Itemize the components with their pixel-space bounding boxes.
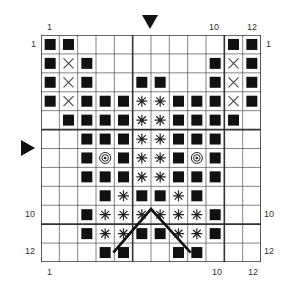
filled-square-icon <box>45 58 56 69</box>
center-row-arrow-icon <box>21 140 35 156</box>
filled-square-icon <box>210 228 221 239</box>
filled-square-icon <box>173 134 184 145</box>
filled-square-icon <box>81 115 92 126</box>
filled-square-icon <box>118 152 129 163</box>
cross-icon <box>229 96 239 106</box>
cross-icon <box>229 58 239 68</box>
filled-square-icon <box>100 247 111 258</box>
filled-square-icon <box>191 134 202 145</box>
filled-square-icon <box>100 115 111 126</box>
filled-square-icon <box>118 134 129 145</box>
filled-square-icon <box>81 171 92 182</box>
filled-square-icon <box>63 115 74 126</box>
asterisk-icon <box>173 190 184 201</box>
filled-square-icon <box>45 96 56 107</box>
left-row-label-12: 12 <box>25 246 35 256</box>
filled-square-icon <box>210 209 221 220</box>
filled-square-icon <box>118 115 129 126</box>
filled-square-icon <box>210 77 221 88</box>
top-col-label-10: 10 <box>209 22 219 32</box>
asterisk-icon <box>136 115 147 126</box>
asterisk-icon <box>155 152 166 163</box>
filled-square-icon <box>210 152 221 163</box>
left-row-label-1: 1 <box>31 39 36 49</box>
filled-square-icon <box>210 171 221 182</box>
filled-square-icon <box>100 171 111 182</box>
stitch-chart-grid <box>41 35 261 262</box>
asterisk-icon <box>100 209 111 220</box>
double-circle-icon <box>191 152 202 163</box>
filled-square-icon <box>246 39 257 50</box>
filled-square-icon <box>81 228 92 239</box>
filled-square-icon <box>81 152 92 163</box>
center-column-arrow-icon <box>142 15 158 29</box>
filled-square-icon <box>191 247 202 258</box>
filled-square-icon <box>81 58 92 69</box>
asterisk-icon <box>191 209 202 220</box>
filled-square-icon <box>191 171 202 182</box>
asterisk-icon <box>136 96 147 107</box>
cross-icon <box>64 96 74 106</box>
filled-square-icon <box>81 77 92 88</box>
left-row-label-10: 10 <box>25 209 35 219</box>
filled-square-icon <box>136 77 147 88</box>
filled-square-icon <box>246 77 257 88</box>
top-col-label-1: 1 <box>47 22 52 32</box>
cross-icon <box>229 77 239 87</box>
filled-square-icon <box>118 247 129 258</box>
filled-square-icon <box>63 39 74 50</box>
filled-square-icon <box>191 96 202 107</box>
filled-square-icon <box>155 190 166 201</box>
filled-square-icon <box>100 134 111 145</box>
asterisk-icon <box>136 134 147 145</box>
asterisk-icon <box>100 228 111 239</box>
filled-square-icon <box>173 96 184 107</box>
cross-icon <box>64 77 74 87</box>
filled-square-icon <box>173 152 184 163</box>
filled-square-icon <box>228 115 239 126</box>
top-col-label-12: 12 <box>247 22 257 32</box>
filled-square-icon <box>173 115 184 126</box>
filled-square-icon <box>155 228 166 239</box>
asterisk-icon <box>155 134 166 145</box>
filled-square-icon <box>45 39 56 50</box>
right-row-label-12: 12 <box>264 246 274 256</box>
filled-square-icon <box>155 77 166 88</box>
filled-square-icon <box>81 209 92 220</box>
bottom-col-label-10: 10 <box>212 267 222 277</box>
filled-square-icon <box>81 134 92 145</box>
filled-square-icon <box>81 96 92 107</box>
filled-square-icon <box>173 247 184 258</box>
asterisk-icon <box>173 209 184 220</box>
double-circle-icon <box>100 152 111 163</box>
filled-square-icon <box>100 96 111 107</box>
filled-square-icon <box>118 171 129 182</box>
filled-square-icon <box>210 115 221 126</box>
filled-square-icon <box>228 39 239 50</box>
asterisk-icon <box>155 171 166 182</box>
right-row-label-10: 10 <box>264 209 274 219</box>
filled-square-icon <box>100 190 111 201</box>
filled-square-icon <box>210 134 221 145</box>
asterisk-icon <box>191 228 202 239</box>
asterisk-icon <box>118 209 129 220</box>
filled-square-icon <box>246 96 257 107</box>
filled-square-icon <box>136 190 147 201</box>
asterisk-icon <box>136 152 147 163</box>
asterisk-icon <box>155 115 166 126</box>
filled-square-icon <box>191 115 202 126</box>
filled-square-icon <box>136 228 147 239</box>
filled-square-icon <box>191 190 202 201</box>
bottom-col-label-12: 12 <box>248 267 258 277</box>
filled-square-icon <box>210 96 221 107</box>
asterisk-icon <box>136 171 147 182</box>
filled-square-icon <box>118 96 129 107</box>
filled-square-icon <box>210 58 221 69</box>
filled-square-icon <box>45 77 56 88</box>
asterisk-icon <box>155 96 166 107</box>
cross-icon <box>64 58 74 68</box>
bottom-col-label-1: 1 <box>47 267 52 277</box>
filled-square-icon <box>173 171 184 182</box>
asterisk-icon <box>118 190 129 201</box>
filled-square-icon <box>246 58 257 69</box>
